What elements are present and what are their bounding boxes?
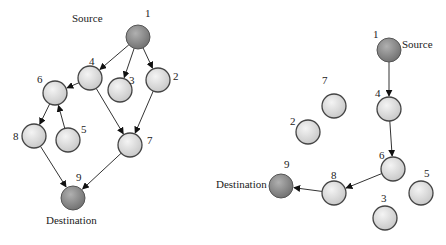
- graph-diagram: 143268579 147265839 Source Destination S…: [0, 0, 446, 245]
- node-9: [61, 186, 85, 210]
- node-label-4: 4: [375, 87, 381, 99]
- node-label-2: 2: [290, 115, 296, 127]
- node-label-3: 3: [381, 192, 387, 204]
- node-label-1: 1: [145, 7, 151, 19]
- node-5: [56, 128, 80, 152]
- edge-2-to-7: [135, 91, 153, 133]
- node-label-8: 8: [13, 130, 19, 142]
- left-source-label: Source: [72, 12, 103, 24]
- node-1: [377, 38, 401, 62]
- node-9: [269, 174, 293, 198]
- left-destination-label: Destination: [46, 214, 97, 226]
- edge-7-to-9: [83, 153, 122, 189]
- node-4: [377, 97, 401, 121]
- node-label-5: 5: [424, 167, 430, 179]
- node-label-8: 8: [331, 169, 337, 181]
- node-7: [322, 94, 346, 118]
- node-label-9: 9: [76, 171, 82, 183]
- node-label-7: 7: [322, 74, 328, 86]
- node-label-1: 1: [373, 28, 379, 40]
- node-label-7: 7: [147, 134, 153, 146]
- node-6: [381, 157, 405, 181]
- node-label-3: 3: [129, 74, 135, 86]
- right-source-label: Source: [402, 38, 433, 50]
- node-4: [78, 66, 102, 90]
- node-7: [118, 133, 142, 157]
- edge-8-to-9: [40, 146, 66, 187]
- node-2: [296, 120, 320, 144]
- edge-4-to-6: [67, 83, 79, 88]
- node-label-2: 2: [173, 70, 179, 82]
- node-5: [409, 181, 433, 205]
- edge-4-to-6: [390, 121, 392, 156]
- node-8: [22, 124, 46, 148]
- node-label-4: 4: [89, 55, 95, 67]
- right-destination-label: Destination: [216, 178, 267, 190]
- node-3: [373, 206, 397, 230]
- edge-6-to-8: [346, 174, 382, 189]
- node-label-9: 9: [284, 158, 290, 170]
- node-6: [43, 81, 67, 105]
- node-8: [322, 181, 346, 205]
- node-2: [146, 68, 170, 92]
- edge-1-to-2: [143, 48, 152, 68]
- left-graph: 143268579: [13, 7, 179, 210]
- edge-5-to-6: [58, 106, 64, 129]
- edge-1-to-4: [100, 45, 129, 70]
- right-graph: 147265839: [269, 28, 433, 230]
- edge-6-to-8: [40, 104, 50, 125]
- node-1: [126, 25, 150, 49]
- node-label-6: 6: [379, 149, 385, 161]
- node-label-5: 5: [81, 123, 87, 135]
- node-label-6: 6: [37, 73, 43, 85]
- edge-8-to-9: [294, 188, 322, 192]
